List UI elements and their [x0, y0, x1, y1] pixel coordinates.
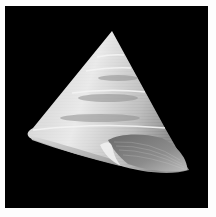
image-frame: Top shell specimen photograph: [0, 0, 216, 217]
shell-illustration: [5, 6, 208, 208]
shell-photo: Top shell specimen photograph: [5, 6, 208, 208]
